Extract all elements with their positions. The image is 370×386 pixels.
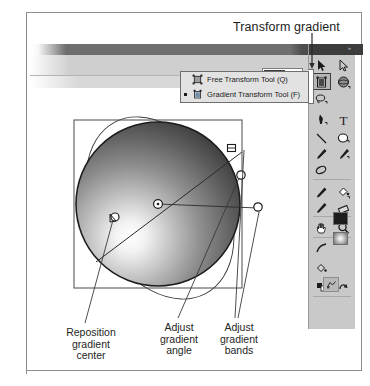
callout-label-transform-gradient: Transform gradient [233, 20, 340, 34]
drawing-stage[interactable] [30, 88, 309, 329]
tools-panel: » [308, 44, 355, 329]
snap-to-objects-option-icon [326, 279, 337, 290]
tool-options-well[interactable] [323, 277, 339, 292]
tool-pen-tool[interactable] [311, 111, 332, 129]
tool-hand-tool[interactable] [311, 219, 332, 237]
tools-divider [313, 179, 351, 180]
caption-reposition-gradient-center: Reposition gradient center [52, 327, 130, 362]
caption-adjust-gradient-angle: Adjust gradient angle [148, 322, 210, 357]
gradient-transform-tool-icon [192, 89, 203, 100]
tool-selection-tool[interactable] [311, 56, 332, 74]
tool-dropdown-menu[interactable]: Free Transform Tool (Q) Gradient Transfo… [180, 71, 309, 103]
tool-brush-tool[interactable] [333, 145, 354, 163]
tool-lasso-tool[interactable] [311, 90, 332, 108]
stroke-color-icon[interactable] [311, 239, 332, 257]
tool-deco-tool[interactable] [311, 161, 332, 179]
tools-divider-4 [313, 296, 351, 297]
menu-item-label: Free Transform Tool (Q) [207, 75, 288, 84]
free-transform-tool-icon [192, 74, 203, 85]
tool-3d-rotation-tool[interactable] [333, 73, 354, 91]
tools-panel-header: » [309, 44, 355, 55]
menu-item-label: Gradient Transform Tool (F) [207, 90, 300, 99]
caption-adjust-gradient-bands: Adjust gradient bands [208, 322, 270, 357]
menu-item-free-transform-tool[interactable]: Free Transform Tool (Q) [181, 72, 308, 87]
selected-bullet-icon [184, 93, 187, 96]
figure-frame-bottom [26, 370, 362, 371]
fill-color-icon[interactable] [311, 259, 332, 277]
menu-item-gradient-transform-tool[interactable]: Gradient Transform Tool (F) [181, 87, 308, 102]
svg-text:T: T [340, 113, 348, 128]
tool-subselection-tool[interactable] [333, 56, 354, 74]
tool-gradient-transform-tool[interactable] [311, 73, 332, 91]
stroke-color-swatch[interactable] [333, 212, 348, 225]
tool-eyedropper-tool[interactable] [311, 199, 332, 217]
tool-text-tool[interactable]: T [333, 111, 354, 129]
panel-grip-icon: » [348, 46, 352, 51]
fill-color-swatch[interactable] [333, 232, 348, 245]
